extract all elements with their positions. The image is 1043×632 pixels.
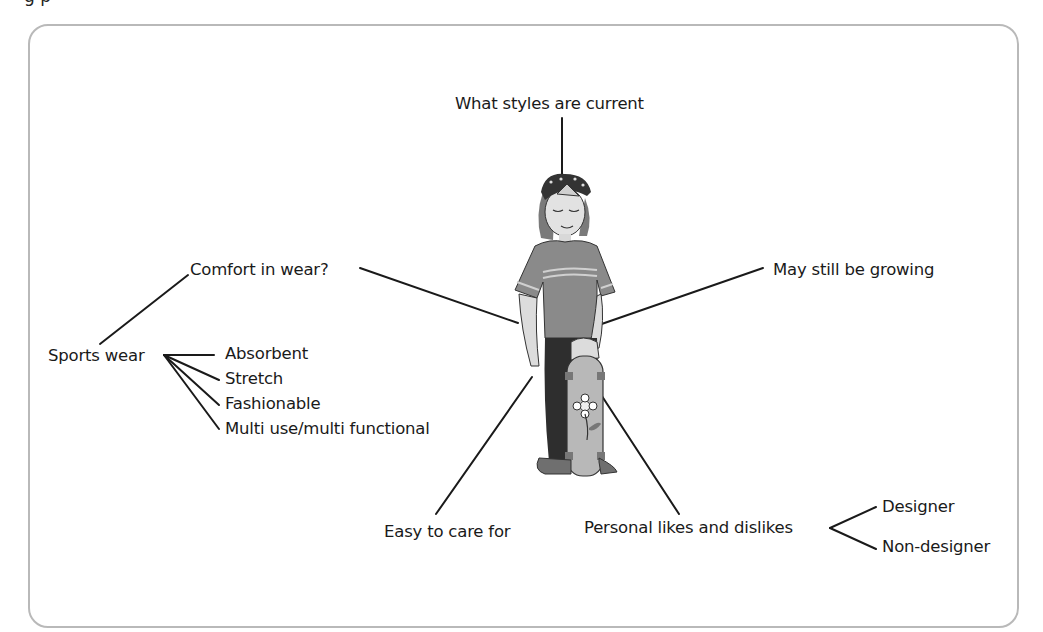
node-personal-likes-and-dislikes: Personal likes and dislikes: [584, 520, 793, 537]
node-what-styles-are-current: What styles are current: [455, 96, 644, 113]
line-fashionable: [164, 355, 219, 405]
node-easy-to-care-for: Easy to care for: [384, 524, 510, 541]
line-comfort-sports: [100, 275, 188, 344]
girl-skateboard-illustration: [505, 170, 635, 485]
line-multi-use: [164, 355, 219, 429]
node-sports-wear: Sports wear: [48, 348, 144, 365]
node-comfort-in-wear: Comfort in wear?: [190, 262, 328, 279]
likes-child-designer: Designer: [882, 499, 954, 516]
line-designer: [830, 507, 876, 528]
sports-child-absorbent: Absorbent: [225, 346, 308, 363]
sports-child-stretch: Stretch: [225, 371, 283, 388]
sports-child-multi-use: Multi use/multi functional: [225, 421, 430, 438]
sports-child-fashionable: Fashionable: [225, 396, 320, 413]
node-may-still-be-growing: May still be growing: [773, 262, 934, 279]
line-comfort: [360, 268, 518, 323]
likes-child-non-designer: Non-designer: [882, 539, 990, 556]
line-non-designer: [830, 528, 876, 549]
